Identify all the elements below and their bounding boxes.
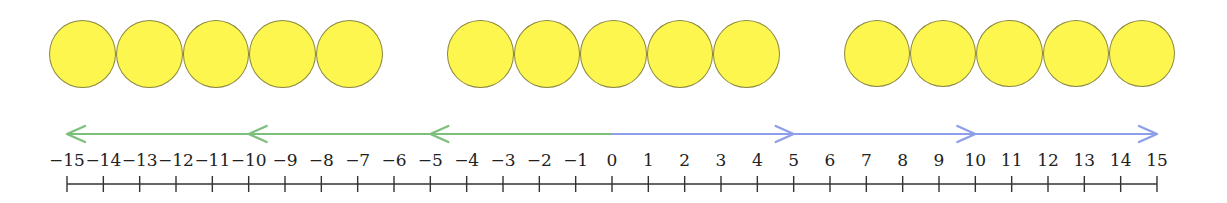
tick-label: −10 bbox=[231, 150, 267, 170]
tick-label: −1 bbox=[563, 150, 588, 170]
tick-label: −7 bbox=[345, 150, 370, 170]
tick-label: 12 bbox=[1037, 150, 1059, 170]
tick-label: 15 bbox=[1146, 150, 1168, 170]
tick-label: 8 bbox=[897, 150, 908, 170]
tick-label: −4 bbox=[454, 150, 479, 170]
number-line-diagram: −15−14−13−12−11−10−9−8−7−6−5−4−3−2−10123… bbox=[0, 0, 1227, 203]
tick-label: 13 bbox=[1074, 150, 1096, 170]
tick-label: −14 bbox=[85, 150, 121, 170]
tick-label: 9 bbox=[934, 150, 945, 170]
tick-label: −2 bbox=[527, 150, 552, 170]
tick-label: −3 bbox=[490, 150, 515, 170]
number-line: −15−14−13−12−11−10−9−8−7−6−5−4−3−2−10123… bbox=[0, 0, 1227, 203]
tick-label: 5 bbox=[788, 150, 799, 170]
tick-label: −8 bbox=[309, 150, 334, 170]
tick-label: 7 bbox=[861, 150, 872, 170]
tick-label: 0 bbox=[607, 150, 618, 170]
tick-label: 14 bbox=[1110, 150, 1132, 170]
tick-label: −5 bbox=[418, 150, 443, 170]
tick-label: −13 bbox=[122, 150, 158, 170]
tick-label: 1 bbox=[643, 150, 654, 170]
tick-label: 6 bbox=[825, 150, 836, 170]
tick-label: −12 bbox=[158, 150, 194, 170]
tick-label: −11 bbox=[194, 150, 230, 170]
tick-label: 11 bbox=[1001, 150, 1023, 170]
tick-label: −9 bbox=[272, 150, 297, 170]
tick-label: 3 bbox=[716, 150, 727, 170]
tick-label: −15 bbox=[49, 150, 85, 170]
tick-label: 4 bbox=[752, 150, 763, 170]
tick-label: 10 bbox=[965, 150, 987, 170]
tick-label: −6 bbox=[381, 150, 406, 170]
tick-label: 2 bbox=[679, 150, 690, 170]
